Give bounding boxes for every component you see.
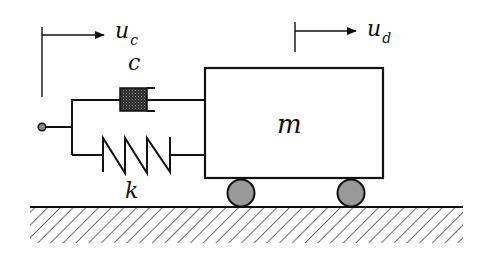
wheel-left	[228, 180, 255, 207]
input-node	[38, 99, 72, 155]
damper	[72, 88, 205, 111]
mass-label: m	[277, 109, 302, 139]
diagram-canvas: uc c k m ud	[0, 0, 487, 257]
spring	[72, 137, 205, 173]
ground	[30, 207, 463, 243]
mass-displacement-arrow	[295, 22, 356, 52]
mass-displacement-label: ud	[367, 16, 391, 46]
wheel-right	[338, 180, 365, 207]
spring-label: k	[125, 178, 138, 203]
damper-label: c	[128, 50, 140, 75]
input-displacement-arrow	[42, 27, 104, 97]
input-displacement-label: uc	[115, 18, 138, 48]
